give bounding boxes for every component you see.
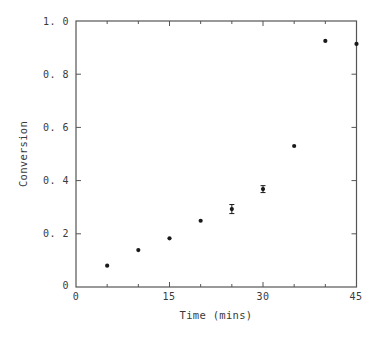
x-tick-label-15: 15 [162, 291, 175, 302]
scatter-chart: 0 0. 2 0. 4 0. 6 0. 8 1. 0 0 15 30 45 Ti… [0, 0, 382, 337]
data-point [292, 144, 296, 148]
plot-border [76, 21, 357, 287]
data-points [105, 39, 359, 268]
data-point [323, 39, 327, 43]
y-tick-label-0.2: 0. 2 [43, 228, 69, 239]
x-tick-label-0: 0 [73, 291, 80, 302]
data-point [230, 207, 234, 211]
y-tick-label-0: 0 [62, 280, 69, 291]
y-tick-label-0.8: 0. 8 [43, 69, 69, 80]
y-tick-label-0.4: 0. 4 [43, 175, 69, 186]
x-tick-label-30: 30 [256, 291, 269, 302]
data-point [167, 236, 171, 240]
x-tick-labels: 0 15 30 45 [73, 291, 363, 302]
y-tick-labels: 0 0. 2 0. 4 0. 6 0. 8 1. 0 [43, 16, 69, 291]
data-point [105, 264, 109, 268]
plot-frame [76, 21, 357, 287]
data-point [199, 219, 203, 223]
y-tick-label-1.0: 1. 0 [43, 16, 69, 27]
y-axis-title: Conversion [17, 121, 29, 187]
data-point [261, 187, 265, 191]
x-tick-label-45: 45 [349, 291, 362, 302]
axis-ticks [76, 21, 357, 287]
x-axis-title: Time (mins) [180, 309, 253, 321]
data-point [136, 248, 140, 252]
data-point [354, 42, 358, 46]
y-tick-label-0.6: 0. 6 [43, 122, 69, 133]
